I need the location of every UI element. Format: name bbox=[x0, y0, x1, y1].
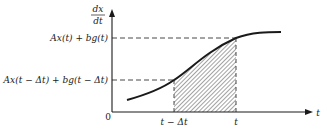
y-axis-arrow-icon bbox=[109, 9, 115, 17]
y-label-numerator: dx bbox=[93, 4, 104, 14]
lower-level-label: Ax(t − Δt) + bg(t − Δt) bbox=[3, 75, 109, 85]
integral-diagram: dx dt Ax(t) + bg(t) Ax(t − Δt) + bg(t − … bbox=[0, 0, 327, 138]
x-tick-t: t bbox=[234, 117, 238, 127]
upper-level-label: Ax(t) + bg(t) bbox=[49, 33, 108, 43]
x-axis-label: t bbox=[316, 108, 320, 118]
x-axis-arrow-icon bbox=[305, 109, 313, 115]
x-tick-t-minus-dt: t − Δt bbox=[161, 117, 188, 127]
origin-label: 0 bbox=[105, 112, 111, 122]
y-label-denominator: dt bbox=[93, 16, 103, 26]
